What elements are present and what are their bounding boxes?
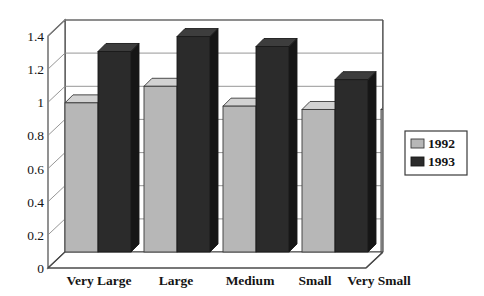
legend: 1992 1993 xyxy=(405,131,467,175)
x-tick-label: Very Large xyxy=(66,273,131,288)
x-axis-category-labels: Very Large Large Medium Small Very Small xyxy=(66,273,411,288)
bar-1993-medium xyxy=(256,39,297,252)
y-tick-label: 0 xyxy=(37,261,44,276)
legend-label-1992: 1992 xyxy=(428,136,455,151)
plot-floor xyxy=(48,252,383,268)
x-tick-label: Small xyxy=(298,273,331,288)
y-axis-tick-labels: 1.4 1.2 1 0.8 0.6 0.4 0.2 0 xyxy=(27,29,44,276)
plot-left-wall xyxy=(48,20,65,268)
legend-label-1993: 1993 xyxy=(428,154,455,169)
legend-swatch-1993 xyxy=(411,157,424,166)
y-tick-label: 0.2 xyxy=(27,228,44,243)
bar-1993-very-large xyxy=(98,43,139,252)
y-tick-label: 1.4 xyxy=(27,29,44,44)
y-tick-label: 0.6 xyxy=(27,162,44,177)
x-tick-label: Very Small xyxy=(347,273,411,288)
bar-1993-large xyxy=(177,29,218,252)
y-tick-label: 0.4 xyxy=(27,195,44,210)
chart-canvas: 1.4 1.2 1 0.8 0.6 0.4 0.2 0 xyxy=(0,0,484,296)
y-tick-label: 1 xyxy=(37,95,44,110)
legend-swatch-1992 xyxy=(411,139,424,148)
y-tick-label: 1.2 xyxy=(27,62,44,77)
bar-1993-small xyxy=(335,72,376,252)
bar-chart-figure: 1.4 1.2 1 0.8 0.6 0.4 0.2 0 xyxy=(0,0,484,296)
x-tick-label: Large xyxy=(159,273,194,288)
y-tick-label: 0.8 xyxy=(27,128,44,143)
x-tick-label: Medium xyxy=(226,273,276,288)
